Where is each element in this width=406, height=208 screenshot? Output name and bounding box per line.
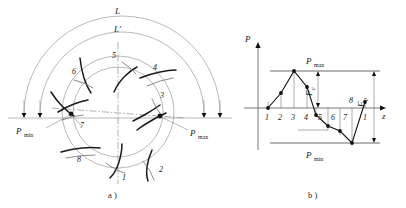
annotation-pmin-main: P [305, 150, 312, 160]
dimension-fp-main: F [356, 101, 366, 108]
force-curve [268, 71, 365, 143]
blade-label-2: 2 [159, 165, 163, 174]
data-point-1 [266, 106, 270, 110]
data-point-3 [292, 69, 296, 73]
dimension-fc-main: F [304, 90, 314, 97]
label-pmin-a-sub: min [24, 132, 33, 138]
tick-label-8: 8 [349, 96, 353, 105]
dimension-fp: F p [356, 71, 376, 143]
annotation-pmax: P max [305, 56, 324, 68]
dimension-fc-sub: c [310, 87, 316, 90]
arc-arrowhead-left-outer [22, 113, 27, 118]
tick-label-9: 1 [363, 113, 367, 122]
blade-label-7: 7 [80, 121, 85, 130]
annotation-pmin: P min [305, 150, 323, 162]
blade-label-5: 5 [112, 51, 116, 60]
figure-a-container: 1 2 3 4 5 6 7 8 L L′ P min P max a ) [0, 0, 240, 208]
arc-arrowhead-left-inner [38, 113, 43, 118]
blade-label-6: 6 [72, 67, 76, 76]
blade-label-3: 3 [159, 91, 164, 100]
tick-label-6: 6 [331, 113, 335, 122]
data-point-2 [279, 91, 283, 95]
blade-label-1: 1 [122, 173, 126, 182]
annotation-pmax-sub: max [314, 62, 324, 68]
caption-b: b ) [308, 190, 317, 200]
leader-pmax [161, 117, 188, 130]
rotor-diagram-svg: 1 2 3 4 5 6 7 8 L L′ P min P max a ) [0, 0, 240, 208]
arc-label-Lprime: L′ [113, 24, 122, 34]
tick-label-7: 7 [343, 113, 348, 122]
tick-label-5: 5 [318, 113, 322, 122]
blade-2 [143, 150, 154, 181]
caption-a: a ) [108, 190, 117, 200]
x-axis-label: z [381, 111, 386, 121]
label-pmax-a-sub: max [198, 134, 208, 140]
leader-pmin [46, 115, 70, 128]
tick-label-1: 1 [265, 113, 269, 122]
data-point-4 [305, 85, 309, 89]
blade-label-8: 8 [77, 155, 81, 164]
arc-arrowhead-right-outer [218, 113, 223, 118]
hub-marker-pmax [158, 114, 163, 119]
blade-label-4: 4 [153, 63, 157, 72]
dimension-fc-arrow-top [316, 71, 320, 76]
y-axis-label: P [244, 34, 251, 44]
annotation-pmin-sub: min [314, 156, 323, 162]
data-point-8 [350, 141, 354, 145]
arc-label-L: L [114, 6, 120, 16]
tick-label-4: 4 [304, 113, 308, 122]
arc-inner-Lprime [40, 32, 204, 114]
y-axis-arrowhead [255, 42, 260, 48]
blade-5 [114, 62, 137, 92]
x-axis-arrowhead [380, 105, 386, 110]
label-pmin-a-main: P [15, 126, 22, 136]
dimension-fp-sub: p [362, 98, 368, 101]
tick-label-3: 3 [290, 113, 295, 122]
dimension-fc-arrow-bottom [316, 103, 320, 108]
label-pmin-a: P min [15, 126, 33, 138]
figure-b-container: P z 1 2 3 4 5 6 7 8 [236, 0, 406, 208]
dimension-fp-arrow-bottom [372, 138, 376, 143]
blade-4 [140, 70, 176, 86]
arc-outer-L [24, 16, 220, 114]
annotation-pmax-main: P [305, 56, 312, 66]
force-chart-svg: P z 1 2 3 4 5 6 7 8 [236, 0, 406, 208]
dimension-fp-arrow-top [372, 71, 376, 76]
arc-arrowhead-right-inner [202, 113, 207, 118]
label-pmax-a: P max [189, 128, 208, 140]
tick-label-2: 2 [278, 113, 282, 122]
data-point-7 [338, 129, 342, 133]
label-pmax-a-main: P [189, 128, 196, 138]
data-point-6 [326, 124, 330, 128]
